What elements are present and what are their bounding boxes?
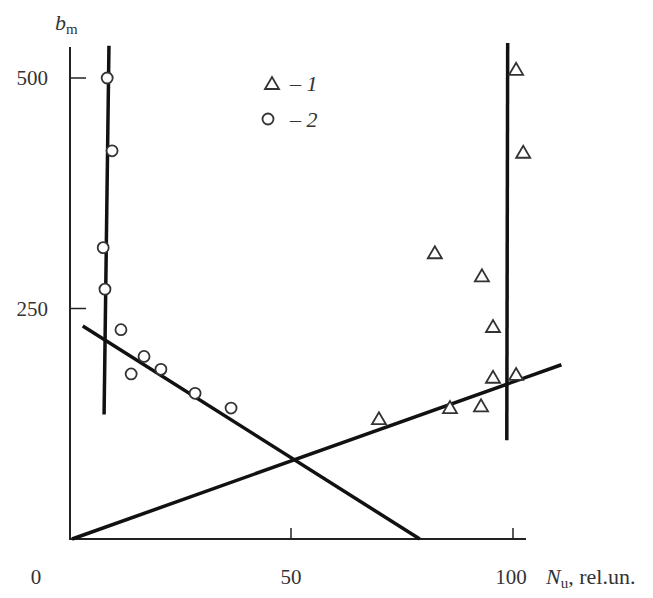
- triangle-marker-icon: [265, 77, 279, 89]
- circle-marker-icon: [115, 324, 126, 335]
- y-axis-title-sub: m: [66, 21, 78, 37]
- x-axis-title-suffix: , rel.un.: [568, 564, 635, 589]
- circle-marker-icon: [139, 351, 150, 362]
- circle-marker-icon: [226, 403, 237, 414]
- axis-ticks: [70, 78, 513, 539]
- triangle-marker-icon: [486, 320, 500, 332]
- circle-marker-icon: [98, 242, 109, 253]
- x-tick-label: 0: [31, 565, 42, 589]
- y-tick-label: 250: [17, 297, 49, 321]
- circle-marker-icon: [155, 364, 166, 375]
- series-1-vertical-line: [507, 43, 508, 440]
- y-tick-label: 500: [17, 66, 49, 90]
- triangle-marker-icon: [428, 246, 442, 258]
- triangle-marker-icon: [486, 371, 500, 383]
- x-tick-label: 100: [495, 565, 527, 589]
- circle-marker-icon: [107, 145, 118, 156]
- series-1-rising-line: [72, 365, 561, 539]
- tick-labels: 050100250500: [17, 66, 527, 589]
- triangle-marker-icon: [509, 63, 523, 75]
- triangle-marker-icon: [475, 269, 489, 281]
- series-2-vertical-line: [104, 46, 109, 415]
- y-axis-title-main: b: [55, 10, 66, 35]
- chart: 050100250500 bm Nu, rel.un. – 1 – 2: [0, 0, 653, 598]
- triangle-marker-icon: [509, 368, 523, 380]
- x-tick-label: 50: [281, 565, 302, 589]
- legend-item-1: – 1: [265, 71, 318, 96]
- legend-item-2: – 2: [263, 107, 318, 132]
- triangle-marker-icon: [474, 399, 488, 411]
- circle-marker-icon: [126, 368, 137, 379]
- triangle-marker-icon: [372, 412, 386, 424]
- circle-marker-icon: [190, 388, 201, 399]
- x-axis-title-main: N: [545, 564, 562, 589]
- triangle-marker-icon: [516, 146, 530, 158]
- circle-marker-icon: [99, 284, 110, 295]
- y-axis-title: bm: [55, 10, 78, 37]
- x-axis-title: Nu, rel.un.: [545, 564, 635, 591]
- circle-marker-icon: [102, 73, 113, 84]
- circle-marker-icon: [263, 114, 274, 125]
- legend: – 1 – 2: [263, 71, 318, 132]
- legend-label-1: – 1: [289, 71, 318, 96]
- legend-label-2: – 2: [289, 107, 318, 132]
